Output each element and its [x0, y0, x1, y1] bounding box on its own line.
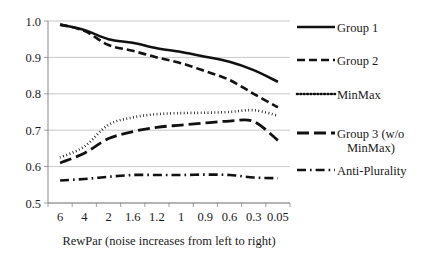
x-tick-label: 1.2 [149, 210, 165, 224]
y-tick-label: 0.9 [25, 51, 41, 65]
x-tick-label: 1 [178, 210, 184, 224]
legend-label: MinMax [337, 88, 382, 102]
x-axis-title: RewPar (noise increases from left to rig… [62, 234, 275, 248]
x-tick-label: 2 [105, 210, 111, 224]
x-tick-label: 0.6 [222, 210, 238, 224]
legend-label: Group 2 [337, 54, 378, 68]
y-tick-label: 1.0 [25, 15, 41, 29]
legend-label-continuation: MinMax) [347, 141, 395, 155]
chart-figure: 0.50.60.70.80.91.0 6421.61.210.90.60.30.… [0, 0, 424, 264]
x-tick-label: 6 [57, 210, 63, 224]
legend-label: Group 3 (w/o [337, 127, 404, 141]
x-tick-label: 4 [81, 210, 88, 224]
x-tick-label: 0.9 [197, 210, 213, 224]
y-tick-label: 0.5 [25, 197, 41, 211]
x-tick-label: 0.05 [267, 210, 289, 224]
y-tick-label: 0.8 [25, 87, 41, 101]
line-chart: 0.50.60.70.80.91.0 6421.61.210.90.60.30.… [0, 0, 424, 264]
legend-label: Group 1 [337, 21, 378, 35]
x-tick-label: 1.6 [125, 210, 141, 224]
y-tick-label: 0.7 [25, 124, 41, 138]
x-tick-label: 0.3 [246, 210, 262, 224]
y-tick-label: 0.6 [25, 160, 41, 174]
legend-label: Anti-Plurality [337, 164, 407, 178]
